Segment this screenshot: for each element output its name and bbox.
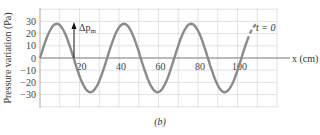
pressure-wave-chart: 3020100−10−20−30 20406080100 Δpm t = 0 x… <box>0 0 320 135</box>
amplitude-label: Δpm <box>79 22 96 35</box>
x-tick-label: 40 <box>116 61 126 72</box>
x-axis-label: x (cm) <box>292 53 318 65</box>
y-tick-label: −20 <box>20 77 36 88</box>
y-tick-label: −10 <box>20 65 36 76</box>
y-axis-label: Pressure variation (Pa) <box>2 12 14 103</box>
y-tick-label: −30 <box>20 89 36 100</box>
y-tick-label: 20 <box>26 28 36 39</box>
y-tick-label: 0 <box>31 53 36 64</box>
y-tick-label: 30 <box>26 16 36 27</box>
curve-label: t = 0 <box>256 22 276 33</box>
y-tick-label: 10 <box>26 40 36 51</box>
figure-label: (b) <box>154 116 166 128</box>
x-tick-label: 80 <box>195 61 205 72</box>
x-tick-label: 60 <box>156 61 166 72</box>
y-tick-labels: 3020100−10−20−30 <box>20 16 36 100</box>
